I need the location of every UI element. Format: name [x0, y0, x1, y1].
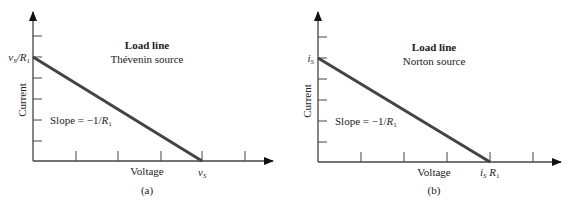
- x-intercept-label: vS: [198, 166, 207, 180]
- y-intercept-label: vS/R1: [8, 51, 30, 65]
- x-ticks: [76, 151, 245, 161]
- subtitle: Thévenin source: [111, 53, 184, 65]
- title: Load line: [412, 41, 456, 53]
- x-axis-label: Voltage: [130, 165, 164, 177]
- y-ticks: [318, 37, 327, 142]
- subtitle: Norton source: [403, 55, 466, 67]
- y-axis-label: Current: [301, 84, 313, 118]
- slope-label: Slope = −1/R1: [335, 115, 397, 129]
- caption: (a): [141, 184, 154, 197]
- load-line-figure: Load line Thévenin source Current Voltag…: [0, 0, 568, 204]
- panel-b-norton: Load line Norton source Current Voltage …: [301, 12, 561, 197]
- load-line: [33, 57, 202, 161]
- y-intercept-label: iS: [307, 52, 314, 66]
- y-ticks: [33, 36, 42, 141]
- x-axis-label: Voltage: [417, 166, 451, 178]
- title: Load line: [125, 39, 169, 51]
- caption: (b): [428, 184, 441, 197]
- x-ticks: [361, 152, 533, 162]
- load-line: [318, 58, 490, 162]
- x-intercept-label: iS R1: [480, 166, 500, 180]
- y-axis-label: Current: [16, 83, 28, 117]
- panel-a-thevenin: Load line Thévenin source Current Voltag…: [8, 12, 273, 197]
- slope-label: Slope = −1/R1: [50, 114, 112, 128]
